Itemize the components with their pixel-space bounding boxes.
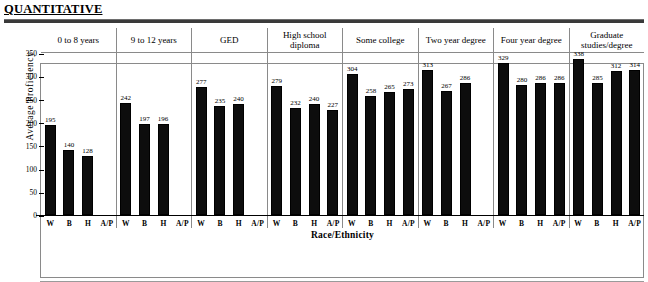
bar-value-label: 286 xyxy=(554,74,565,83)
bar-group: 313267286 xyxy=(419,53,494,215)
bar-slot: 280 xyxy=(513,53,532,215)
x-axis-tick-label: A/P xyxy=(399,217,418,231)
bar-value-label: 304 xyxy=(347,65,358,74)
bar-slot: 312 xyxy=(607,53,626,215)
bar-value-label: 312 xyxy=(611,62,622,71)
y-axis-ticks: 350300250200150100500 xyxy=(0,28,44,228)
bar: 313 xyxy=(422,70,433,215)
bar-slot xyxy=(248,53,267,215)
bar-slot: 197 xyxy=(135,53,154,215)
title-block: QUANTITATIVE xyxy=(4,2,644,26)
bar-slot: 329 xyxy=(494,53,513,215)
bar-group: 195140128 xyxy=(41,53,116,215)
x-axis-tick-label: B xyxy=(286,217,305,231)
bar-slot: 240 xyxy=(305,53,324,215)
chart-panels: 0 to 8 years1951401289 to 12 years242197… xyxy=(41,28,644,228)
bar: 314 xyxy=(629,70,640,215)
bar: 286 xyxy=(460,83,471,215)
bar-slot: 240 xyxy=(229,53,248,215)
x-axis-tick-label: W xyxy=(267,217,286,231)
panel-plot-area: 304258265273 xyxy=(343,53,418,215)
chart-panel: Graduate studies/degree338285312314 xyxy=(570,28,645,228)
bar: 286 xyxy=(535,83,546,215)
x-axis-tick-label: W xyxy=(493,217,512,231)
bar-value-label: 286 xyxy=(535,74,546,83)
bar: 312 xyxy=(611,71,622,215)
bar-slot: 314 xyxy=(625,53,644,215)
bar: 304 xyxy=(347,74,358,215)
bar-slot: 313 xyxy=(419,53,438,215)
panel-header-label: GED xyxy=(192,28,267,53)
bar: 235 xyxy=(214,106,225,215)
bar-slot xyxy=(97,53,116,215)
chart-panel: GED277235240 xyxy=(192,28,268,228)
bar-group: 304258265273 xyxy=(343,53,418,215)
bar: 242 xyxy=(120,103,131,215)
panel-header-label: 0 to 8 years xyxy=(41,28,116,53)
x-axis-tick-label: A/P xyxy=(248,217,267,231)
bar-value-label: 279 xyxy=(272,77,283,86)
bar-slot: 140 xyxy=(60,53,79,215)
bar: 128 xyxy=(82,156,93,215)
category-label-group: WBHA/P xyxy=(418,217,493,231)
bar-value-label: 242 xyxy=(121,94,132,103)
y-axis-tick-label: 200 xyxy=(26,119,39,129)
bar-slot: 304 xyxy=(343,53,362,215)
bar-value-label: 240 xyxy=(309,95,320,104)
x-axis-tick-label: W xyxy=(41,217,60,231)
panel-plot-area: 277235240 xyxy=(192,53,267,215)
x-axis-tick-label: W xyxy=(192,217,211,231)
bar-slot: 279 xyxy=(268,53,287,215)
x-axis-tick-label: W xyxy=(418,217,437,231)
x-axis-tick-label: H xyxy=(380,217,399,231)
bar-value-label: 197 xyxy=(139,115,150,124)
bar-value-label: 232 xyxy=(290,99,301,108)
x-axis-tick-label: B xyxy=(587,217,606,231)
bar-slot xyxy=(172,53,191,215)
bar-value-label: 273 xyxy=(403,80,414,89)
panel-plot-area: 338285312314 xyxy=(570,53,645,215)
bar-value-label: 338 xyxy=(574,50,585,59)
chart-panel: Two year degree313267286 xyxy=(419,28,495,228)
title-divider xyxy=(4,19,644,23)
category-label-group: WBHA/P xyxy=(116,217,191,231)
x-axis-tick-label: A/P xyxy=(550,217,569,231)
x-axis-label: Race/Ethnicity xyxy=(41,230,644,240)
bar-slot: 265 xyxy=(380,53,399,215)
bar-slot: 273 xyxy=(399,53,418,215)
bar-value-label: 195 xyxy=(45,116,56,125)
chart-panel: 0 to 8 years195140128 xyxy=(41,28,117,228)
y-axis-tick-label: 300 xyxy=(26,72,39,82)
x-axis-category-labels: WBHA/PWBHA/PWBHA/PWBHA/PWBHA/PWBHA/PWBHA… xyxy=(41,217,644,231)
bar-slot: 242 xyxy=(117,53,136,215)
bar: 227 xyxy=(327,110,338,215)
bar: 273 xyxy=(403,89,414,215)
bar: 140 xyxy=(63,150,74,215)
x-axis-tick-label: A/P xyxy=(625,217,644,231)
chart-panel: Some college304258265273 xyxy=(343,28,419,228)
bar: 329 xyxy=(498,63,509,215)
panel-plot-area: 313267286 xyxy=(419,53,494,215)
bar-slot: 286 xyxy=(531,53,550,215)
x-axis-tick-label: W xyxy=(116,217,135,231)
bar-value-label: 329 xyxy=(498,54,509,63)
bar-value-label: 286 xyxy=(460,74,471,83)
y-axis-tick-label: 100 xyxy=(26,165,39,175)
bar-value-label: 140 xyxy=(64,141,75,150)
bar: 197 xyxy=(139,124,150,215)
bar-value-label: 240 xyxy=(233,95,244,104)
bar: 258 xyxy=(365,96,376,215)
bar-slot: 258 xyxy=(362,53,381,215)
bar-value-label: 196 xyxy=(158,115,169,124)
category-label-group: WBHA/P xyxy=(192,217,267,231)
panel-plot-area: 329280286286 xyxy=(494,53,569,215)
category-label-group: WBHA/P xyxy=(41,217,116,231)
bar-slot: 195 xyxy=(41,53,60,215)
bar: 277 xyxy=(196,87,207,215)
y-axis-tick-label: 150 xyxy=(26,142,39,152)
x-axis-tick-label: H xyxy=(229,217,248,231)
bar-slot: 235 xyxy=(211,53,230,215)
bar: 267 xyxy=(441,91,452,215)
bar-value-label: 277 xyxy=(196,78,207,87)
bar-slot: 232 xyxy=(286,53,305,215)
